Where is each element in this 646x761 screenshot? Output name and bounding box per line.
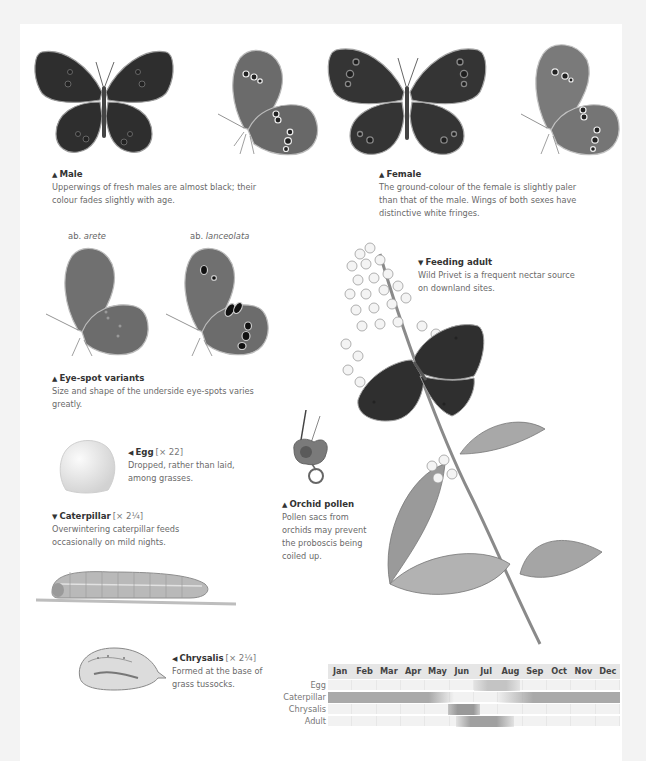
triangle-up-icon: ▲ <box>52 171 57 179</box>
orchid-pollen-illustration <box>284 406 334 486</box>
field-guide-page: ▲Male Upperwings of fresh males are almo… <box>20 24 622 761</box>
variant-label-arete: ab. arete <box>68 231 106 241</box>
chrysalis-caption-title: ◀Chrysalis[× 2¼] <box>172 652 282 665</box>
feeding-adult-illustration <box>356 320 486 430</box>
female-upperside-illustration <box>326 42 488 160</box>
month-label: Mar <box>377 664 401 679</box>
triangle-up-icon: ▲ <box>52 375 57 383</box>
male-underside-illustration <box>214 46 324 161</box>
variants-caption-title: ▲Eye-spot variants <box>52 372 292 385</box>
triangle-left-icon: ◀ <box>128 449 133 457</box>
female-underside-illustration <box>515 42 625 162</box>
row-label: Chrysalis <box>282 704 326 715</box>
adult-period-bar <box>456 716 514 727</box>
month-label: Aug <box>498 664 522 679</box>
month-label: Jan <box>328 664 352 679</box>
month-label: Apr <box>401 664 425 679</box>
egg-period-bar <box>474 680 520 691</box>
triangle-up-icon: ▲ <box>379 171 384 179</box>
variants-caption: ▲Eye-spot variants Size and shape of the… <box>52 372 292 411</box>
triangle-up-icon: ▲ <box>282 501 287 509</box>
chart-row-adult: Adult <box>282 716 622 727</box>
male-caption-title: ▲Male <box>52 168 302 181</box>
variant-lanceolata-illustration <box>162 246 272 361</box>
month-header-row: Jan Feb Mar Apr May Jun Jul Aug Sep Oct … <box>328 664 620 679</box>
female-caption: ▲Female The ground-colour of the female … <box>379 168 629 220</box>
chrysalis-period-bar <box>448 704 480 715</box>
feeding-adult-caption-title: ▼Feeding adult <box>418 256 608 269</box>
caterpillar-illustration <box>30 564 240 614</box>
female-caption-title: ▲Female <box>379 168 629 181</box>
row-label: Adult <box>282 716 326 727</box>
row-label: Egg <box>282 680 326 691</box>
month-label: Jul <box>474 664 498 679</box>
male-upperside-illustration <box>34 44 174 159</box>
wild-privet-illustration <box>340 234 610 654</box>
triangle-down-icon: ▼ <box>418 259 423 267</box>
caterpillar-period-bar-autumn <box>496 692 620 703</box>
orchid-pollen-caption-title: ▲Orchid pollen <box>282 498 392 511</box>
egg-caption-title: ◀Egg[× 22] <box>128 446 278 459</box>
month-label: Dec <box>596 664 620 679</box>
variant-label-lanceolata: ab. lanceolata <box>190 231 249 241</box>
orchid-pollen-caption: ▲Orchid pollen Pollen sacs from orchids … <box>282 498 392 563</box>
triangle-left-icon: ◀ <box>172 655 177 663</box>
egg-caption: ◀Egg[× 22] Dropped, rather than laid, am… <box>128 446 278 485</box>
month-label: Jun <box>450 664 474 679</box>
variant-arete-illustration <box>42 246 152 361</box>
male-caption: ▲Male Upperwings of fresh males are almo… <box>52 168 302 207</box>
triangle-down-icon: ▼ <box>52 513 57 521</box>
chart-row-caterpillar: Caterpillar <box>282 692 622 703</box>
month-label: Feb <box>352 664 376 679</box>
chart-row-egg: Egg <box>282 680 622 691</box>
month-label: Oct <box>547 664 571 679</box>
month-label: Nov <box>571 664 595 679</box>
month-label: Sep <box>523 664 547 679</box>
row-label: Caterpillar <box>282 692 326 703</box>
caterpillar-caption-title: ▼Caterpillar[× 2¼] <box>52 510 252 523</box>
egg-illustration <box>56 438 118 494</box>
caterpillar-caption: ▼Caterpillar[× 2¼] Overwintering caterpi… <box>52 510 252 549</box>
caterpillar-period-bar-spring <box>328 692 454 703</box>
month-label: May <box>425 664 449 679</box>
chrysalis-caption: ◀Chrysalis[× 2¼] Formed at the base of g… <box>172 652 282 691</box>
chrysalis-illustration <box>74 644 169 692</box>
chart-row-chrysalis: Chrysalis <box>282 704 622 715</box>
feeding-adult-caption: ▼Feeding adult Wild Privet is a frequent… <box>418 256 608 295</box>
